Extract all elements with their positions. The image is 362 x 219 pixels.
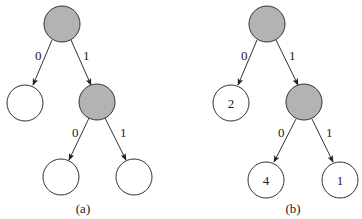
binary-trees-diagram: 0 1 0 1 (a) 0 1 0 1 2 4 1 (b)	[0, 0, 362, 219]
node-b-left-value: 2	[228, 96, 235, 111]
node-b-right-internal	[286, 84, 322, 120]
edge-label-b-0-second: 0	[278, 125, 285, 140]
node-b-right-right-value: 1	[337, 173, 344, 188]
tree-a: 0 1 0 1 (a)	[7, 6, 152, 216]
edge-label-b-0: 0	[241, 48, 248, 63]
edge-label-a-1: 1	[83, 48, 90, 63]
tree-b: 0 1 0 1 2 4 1 (b)	[213, 6, 358, 216]
edge-label-a-1-second: 1	[120, 125, 127, 140]
node-b-right-left-value: 4	[263, 173, 270, 188]
node-a-right-right-leaf	[116, 159, 152, 195]
node-a-root	[44, 6, 80, 42]
edge-label-a-0-second: 0	[72, 125, 79, 140]
node-a-right-left-leaf	[43, 159, 79, 195]
node-a-right-internal	[79, 84, 115, 120]
caption-a: (a)	[76, 201, 90, 216]
edge-label-b-1: 1	[289, 48, 296, 63]
edge-label-b-1-second: 1	[326, 125, 333, 140]
caption-b: (b)	[285, 201, 300, 216]
node-b-root	[249, 6, 285, 42]
edge-label-a-0: 0	[35, 48, 42, 63]
node-a-left-leaf	[7, 85, 43, 121]
